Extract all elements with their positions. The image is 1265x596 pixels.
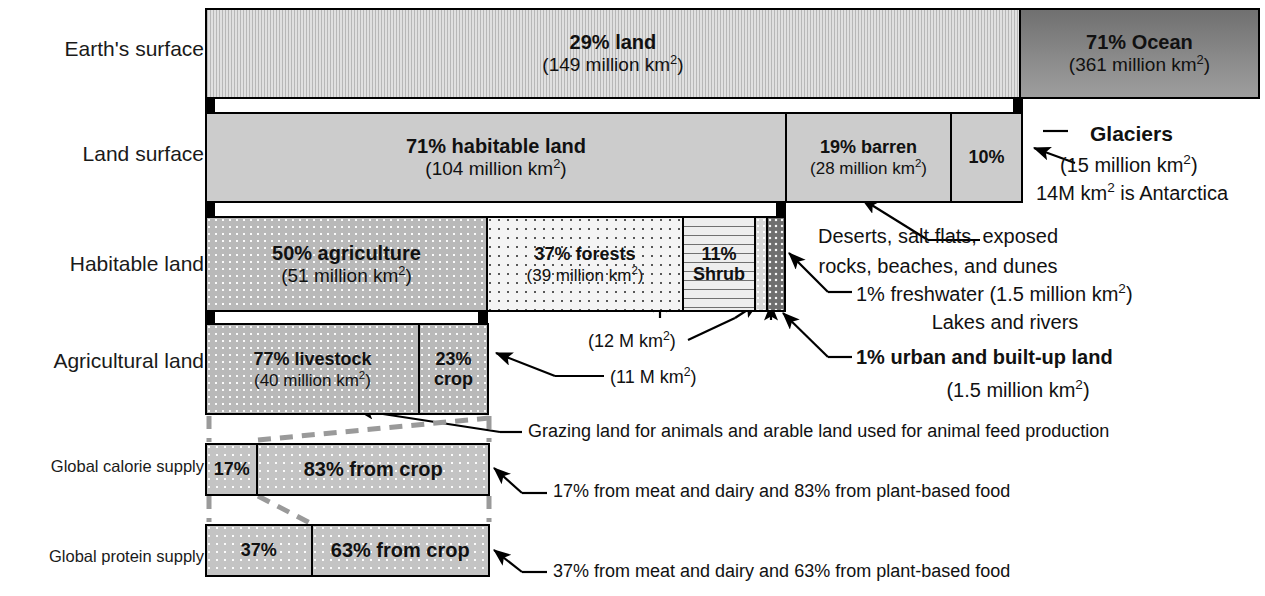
segment-calorie-crop-label: 83% from crop [304, 458, 443, 480]
segment-forests: 37% forests (39 million km2) [488, 218, 684, 310]
calorie-leader [494, 468, 547, 493]
annotation-crop-area: (11 M km2) [610, 365, 696, 388]
row-label-land-surface: Land surface [83, 143, 204, 165]
segment-habitable-land: 71% habitable land (104 million km2) [207, 114, 787, 201]
tick-right-row2 [776, 203, 786, 217]
segment-crop-sublabel: crop [434, 369, 473, 389]
bar-land-surface: 71% habitable land (104 million km2) 19%… [205, 112, 1023, 203]
protein-leader [494, 550, 547, 572]
segment-barren-headline: 19% barren [820, 137, 917, 157]
segment-shrub-headline: 11% [701, 244, 736, 264]
tick-left-row1 [205, 99, 215, 113]
segment-crop: 23% crop [420, 325, 487, 413]
segment-land-headline: 29% land [570, 31, 657, 53]
segment-forests-headline: 37% forests [534, 244, 635, 264]
segment-protein-crop: 63% from crop [313, 526, 488, 575]
segment-barren-sublabel: (28 million km2) [810, 157, 927, 178]
annotation-glaciers-note: 14M km2 is Antarctica [1036, 180, 1228, 205]
crop-area-leader [496, 353, 604, 376]
annotation-glaciers-area: (15 million km2) [1060, 152, 1198, 177]
segment-protein-meat: 37% [207, 526, 313, 575]
annotation-calorie-note: 17% from meat and dairy and 83% from pla… [553, 481, 1010, 502]
segment-barren: 19% barren (28 million km2) [787, 114, 952, 201]
annotation-protein-note: 37% from meat and dairy and 63% from pla… [553, 561, 1010, 582]
segment-ocean-headline: 71% Ocean [1086, 31, 1193, 53]
segment-forests-sublabel: (39 million km2) [527, 264, 644, 285]
segment-calorie-meat-label: 17% [214, 459, 250, 479]
segment-crop-headline: 23% [435, 349, 471, 369]
segment-land: 29% land (149 million km2) [207, 10, 1021, 97]
annotation-freshwater: 1% freshwater (1.5 million km2) [856, 281, 1133, 306]
bar-protein-supply: 37% 63% from crop [205, 524, 490, 577]
segment-urban [768, 218, 784, 310]
segment-livestock: 77% livestock (40 million km2) [207, 325, 420, 413]
segment-ocean-sublabel: (361 million km2) [1069, 53, 1210, 76]
segment-shrub: 11% Shrub [684, 218, 756, 310]
segment-calorie-crop: 83% from crop [258, 445, 488, 494]
segment-protein-crop-label: 63% from crop [331, 539, 470, 561]
segment-freshwater [756, 218, 768, 310]
segment-habitable-sublabel: (104 million km2) [425, 157, 566, 180]
segment-calorie-meat: 17% [207, 445, 258, 494]
annotation-freshwater-desc: Lakes and rivers [932, 311, 1079, 335]
urban-leader [783, 313, 852, 357]
bar-calorie-supply: 17% 83% from crop [205, 443, 490, 496]
segment-agriculture-sublabel: (51 million km2) [281, 264, 412, 287]
annotation-barren-desc-line1: Deserts, salt flats, exposed [818, 225, 1058, 249]
segment-protein-meat-label: 37% [241, 540, 277, 560]
bar-agricultural-land: 77% livestock (40 million km2) 23% crop [205, 323, 489, 415]
segment-glaciers-headline: 10% [968, 147, 1004, 167]
segment-livestock-headline: 77% livestock [253, 349, 371, 369]
segment-agriculture-headline: 50% agriculture [272, 242, 421, 264]
segment-habitable-headline: 71% habitable land [406, 135, 586, 157]
segment-livestock-sublabel: (40 million km2) [254, 369, 371, 390]
annotation-shrub-area: (12 M km2) [588, 329, 676, 352]
bar-habitable-land: 50% agriculture (51 million km2) 37% for… [205, 216, 786, 312]
segment-agriculture: 50% agriculture (51 million km2) [207, 218, 488, 310]
tick-left-row2 [205, 203, 215, 217]
infographic-canvas: Earth's surface 29% land (149 million km… [0, 0, 1265, 596]
annotation-glaciers-title: Glaciers [1090, 122, 1173, 147]
row-label-agricultural-land: Agricultural land [53, 350, 204, 372]
annotation-grazing-note: Grazing land for animals and arable land… [528, 421, 1109, 442]
annotation-urban-bold: 1% urban and built-up land [856, 346, 1113, 370]
annotation-urban-area: (1.5 million km2) [946, 377, 1089, 402]
row-label-earth-surface: Earth's surface [65, 38, 204, 60]
segment-land-sublabel: (149 million km2) [542, 53, 683, 76]
row-label-calorie-supply: Global calorie supply [51, 458, 204, 475]
row-label-habitable-land: Habitable land [70, 253, 204, 275]
annotation-freshwater-bold: 1% freshwater [856, 283, 984, 305]
segment-glaciers: 10% [952, 114, 1021, 201]
row-label-protein-supply: Global protein supply [49, 548, 204, 565]
annotation-barren-desc-line2: rocks, beaches, and dunes [818, 255, 1057, 279]
segment-shrub-sublabel: Shrub [693, 264, 745, 284]
segment-ocean: 71% Ocean (361 million km2) [1021, 10, 1258, 97]
bar-earth-surface: 29% land (149 million km2) 71% Ocean (36… [205, 8, 1260, 99]
tick-right-row1 [1013, 99, 1023, 113]
